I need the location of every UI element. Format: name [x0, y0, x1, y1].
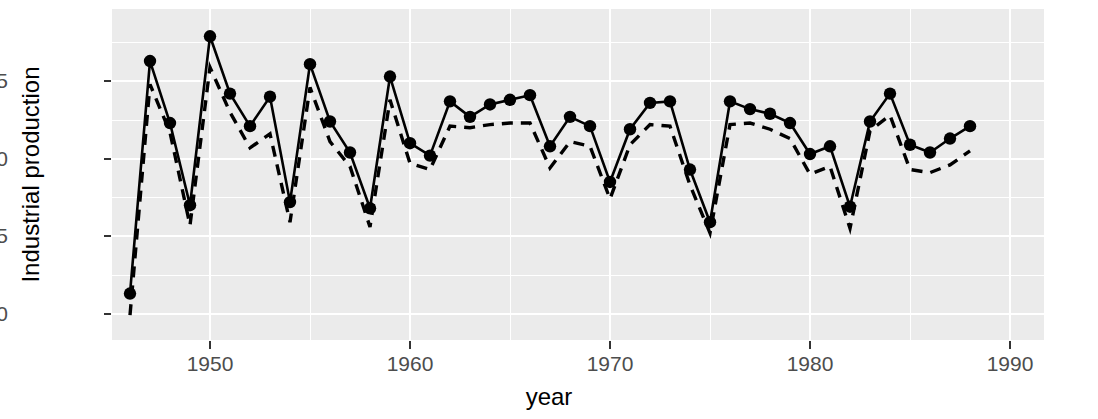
data-point	[364, 202, 376, 214]
data-point	[664, 95, 676, 107]
data-point	[484, 98, 496, 110]
data-point	[684, 163, 696, 175]
plot-panel	[112, 9, 1044, 340]
data-point	[144, 55, 156, 67]
x-axis-title: year	[0, 383, 1098, 411]
x-tick-label: 1990	[987, 352, 1034, 376]
x-tick-mark	[209, 341, 211, 349]
data-point	[444, 95, 456, 107]
data-point	[744, 103, 756, 115]
plot-area	[112, 9, 1044, 340]
data-point	[624, 123, 636, 135]
y-axis-title: Industrial production	[14, 9, 48, 340]
data-point	[304, 58, 316, 70]
y-tick-label: 2.5	[0, 69, 8, 93]
data-point	[644, 97, 656, 109]
data-point	[244, 120, 256, 132]
x-tick-label: 1950	[187, 352, 234, 376]
data-point	[784, 117, 796, 129]
data-point	[844, 201, 856, 213]
x-tick-mark	[809, 341, 811, 349]
x-tick-mark	[609, 341, 611, 349]
data-point	[404, 137, 416, 149]
industrial-production-chart: Industrial production 2.50.0-2.5-5.0 195…	[0, 0, 1098, 419]
data-point	[344, 146, 356, 158]
data-point	[124, 287, 136, 299]
data-point	[524, 89, 536, 101]
y-tick-label: -5.0	[0, 302, 8, 326]
x-tick-label: 1970	[587, 352, 634, 376]
data-point	[184, 199, 196, 211]
data-point	[704, 216, 716, 228]
data-point	[904, 139, 916, 151]
y-tick-mark	[104, 235, 111, 237]
data-point	[224, 87, 236, 99]
data-point	[944, 132, 956, 144]
series-line-observed	[130, 36, 970, 293]
data-point	[924, 146, 936, 158]
x-tick-label: 1960	[387, 352, 434, 376]
data-point	[724, 95, 736, 107]
y-tick-label: -2.5	[0, 224, 8, 248]
y-tick-mark	[104, 158, 111, 160]
x-tick-label: 1980	[787, 352, 834, 376]
data-point	[204, 30, 216, 42]
data-point	[564, 111, 576, 123]
data-point	[604, 176, 616, 188]
x-tick-mark	[1009, 341, 1011, 349]
data-point	[384, 70, 396, 82]
data-point	[544, 140, 556, 152]
data-point	[824, 140, 836, 152]
data-point	[764, 108, 776, 120]
data-point	[884, 87, 896, 99]
data-point	[864, 115, 876, 127]
y-tick-mark	[104, 80, 111, 82]
data-point	[284, 196, 296, 208]
data-point	[464, 111, 476, 123]
data-point	[324, 115, 336, 127]
data-point	[584, 120, 596, 132]
x-tick-mark	[409, 341, 411, 349]
data-point	[504, 94, 516, 106]
data-point	[264, 91, 276, 103]
y-tick-label: 0.0	[0, 147, 8, 171]
data-point	[804, 148, 816, 160]
data-point	[964, 120, 976, 132]
data-point	[424, 149, 436, 161]
y-tick-mark	[104, 313, 111, 315]
data-point	[164, 117, 176, 129]
